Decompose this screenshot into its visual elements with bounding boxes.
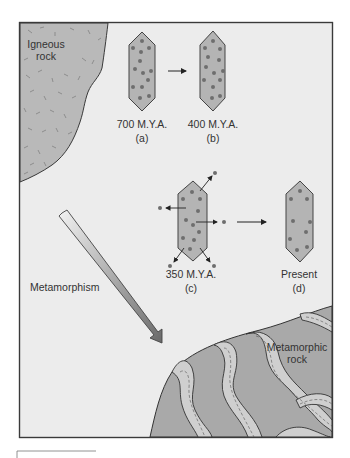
stage-a-letter: (a) — [136, 132, 149, 144]
stage-a-age: 700 M.Y.A. — [117, 118, 168, 130]
stage-c-letter: (c) — [185, 282, 197, 294]
zircon-crystal-d: Present (d) — [281, 181, 317, 294]
stage-d-letter: (d) — [293, 282, 306, 294]
stage-d-age: Present — [281, 268, 317, 280]
metamorphism-diagram: Igneous rock 700 M.Y.A. (a) 400 M.Y.A. (… — [0, 0, 350, 458]
stage-c-age: 350 M.Y.A. — [166, 268, 217, 280]
igneous-rock-label-line2: rock — [36, 50, 57, 62]
stage-b-age: 400 M.Y.A. — [188, 118, 239, 130]
metamorphism-label: Metamorphism — [30, 281, 100, 293]
metamorphic-rock-label-line2: rock — [287, 353, 308, 365]
stage-b-letter: (b) — [207, 132, 220, 144]
metamorphic-rock-label-line1: Metamorphic — [267, 341, 328, 353]
igneous-rock-label-line1: Igneous — [27, 38, 64, 50]
